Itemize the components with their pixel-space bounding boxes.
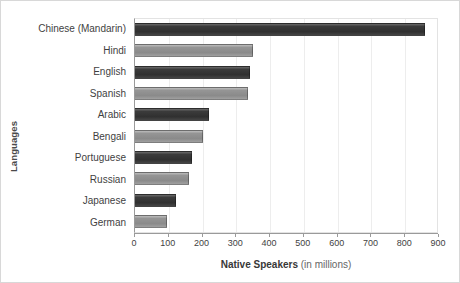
x-tick-label: 200: [194, 238, 209, 248]
bar-row: [135, 168, 437, 189]
bar-row: [135, 211, 437, 232]
x-tick-label: 600: [329, 238, 344, 248]
category-label: Arabic: [25, 104, 131, 126]
category-label: Spanish: [25, 83, 131, 105]
x-tick-label: 500: [295, 238, 310, 248]
x-tick-label: 700: [363, 238, 378, 248]
category-label: Chinese (Mandarin): [25, 18, 131, 40]
x-tick-mark: [202, 234, 203, 237]
bar-row: [135, 40, 437, 61]
category-label: Japanese: [25, 190, 131, 212]
x-tick-label: 800: [397, 238, 412, 248]
x-tick-mark: [269, 234, 270, 237]
category-label: English: [25, 61, 131, 83]
bar-series: [135, 19, 437, 232]
bar-spanish: [135, 87, 248, 100]
bar-row: [135, 125, 437, 146]
bar-portuguese: [135, 151, 192, 164]
x-tick-mark: [370, 234, 371, 237]
x-tick-mark: [337, 234, 338, 237]
category-label: Portuguese: [25, 147, 131, 169]
bar-row: [135, 104, 437, 125]
x-tick-label: 100: [160, 238, 175, 248]
x-axis-title-strong: Native Speakers: [221, 259, 298, 270]
x-tick-mark: [438, 234, 439, 237]
bar-row: [135, 83, 437, 104]
bar-german: [135, 215, 167, 228]
x-tick-mark: [168, 234, 169, 237]
x-axis-title-light: (in millions): [301, 259, 352, 270]
x-tick-mark: [404, 234, 405, 237]
x-tick-mark: [235, 234, 236, 237]
category-label: Bengali: [25, 126, 131, 148]
x-tick-mark: [303, 234, 304, 237]
bar-row: [135, 147, 437, 168]
category-label: Russian: [25, 169, 131, 191]
x-tick-label: 300: [228, 238, 243, 248]
bar-row: [135, 19, 437, 40]
bar-hindi: [135, 44, 253, 57]
bar-english: [135, 66, 250, 79]
y-axis-title: Languages: [3, 96, 25, 196]
bar-arabic: [135, 108, 209, 121]
bar-bengali: [135, 130, 203, 143]
category-label-list: Chinese (Mandarin) Hindi English Spanish…: [25, 18, 131, 233]
bar-chart-figure: Languages Chinese (Mandarin) Hindi Engli…: [0, 0, 460, 283]
y-axis-title-text: Languages: [9, 120, 20, 171]
bar-russian: [135, 172, 189, 185]
bar-chinese-mandarin: [135, 23, 425, 36]
category-label: German: [25, 212, 131, 234]
x-axis-ticks: 0100200300400500600700800900: [134, 234, 438, 248]
x-axis-title: Native Speakers (in millions): [134, 259, 438, 270]
plot-area: [134, 18, 438, 233]
x-tick-label: 0: [131, 238, 136, 248]
x-tick-label: 900: [430, 238, 445, 248]
bar-row: [135, 189, 437, 210]
category-label: Hindi: [25, 40, 131, 62]
x-tick-label: 400: [262, 238, 277, 248]
bar-japanese: [135, 194, 176, 207]
x-tick-mark: [134, 234, 135, 237]
bar-row: [135, 62, 437, 83]
